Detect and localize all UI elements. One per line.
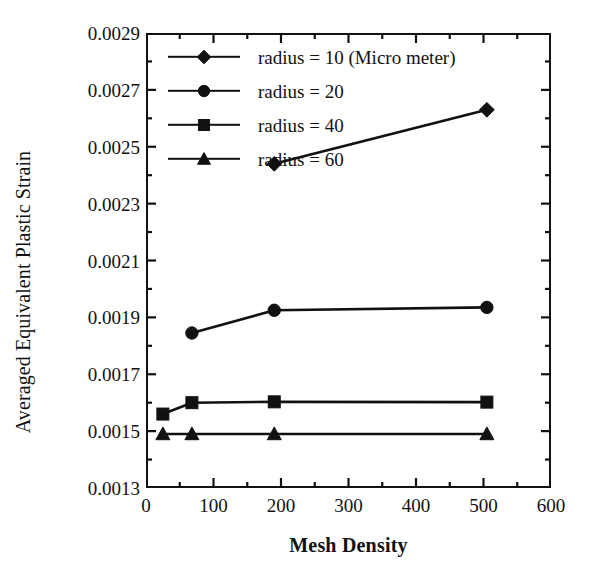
- data-point-marker: [481, 396, 493, 408]
- data-series: [156, 427, 494, 440]
- diamond-marker-icon: [194, 47, 214, 67]
- legend-key-circle-icon: [168, 81, 240, 101]
- y-axis-tick-label: 0.0013: [54, 479, 140, 498]
- data-point-marker: [481, 301, 493, 313]
- data-point-marker: [268, 396, 280, 408]
- x-axis-tick-label: 100: [179, 496, 249, 515]
- legend-item[interactable]: radius = 60: [168, 142, 456, 176]
- chart-legend: radius = 10 (Micro meter)radius = 20radi…: [168, 40, 456, 176]
- circle-marker-icon: [194, 81, 214, 101]
- x-axis-tick-label: 400: [381, 496, 451, 515]
- y-axis-tick-label: 0.0023: [54, 194, 140, 213]
- y-axis-tick-label: 0.0029: [54, 24, 140, 43]
- x-axis-tick-label: 200: [246, 496, 316, 515]
- y-axis-tick-label: 0.0017: [54, 365, 140, 384]
- data-point-marker: [186, 397, 198, 409]
- triangle-marker-icon: [194, 149, 214, 169]
- data-point-marker: [186, 327, 198, 339]
- plot-area: radius = 10 (Micro meter)radius = 20radi…: [146, 33, 551, 488]
- y-axis-tick-label: 0.0021: [54, 251, 140, 270]
- square-marker-icon: [194, 115, 214, 135]
- legend-item[interactable]: radius = 20: [168, 74, 456, 108]
- legend-key-square-icon: [168, 115, 240, 135]
- chart-figure: Averaged Equivalent Plastic Strain 0.001…: [0, 0, 598, 584]
- data-point-marker: [479, 102, 494, 117]
- y-axis-tick-label: 0.0027: [54, 80, 140, 99]
- data-series: [157, 396, 493, 420]
- data-point-marker: [157, 408, 169, 420]
- x-axis-tick-label: 0: [111, 496, 181, 515]
- x-axis-tick-label: 600: [516, 496, 586, 515]
- x-axis-tick-label: 300: [314, 496, 384, 515]
- legend-label: radius = 40: [240, 116, 344, 135]
- legend-key-diamond-icon: [168, 47, 240, 67]
- y-axis-tick-label: 0.0015: [54, 422, 140, 441]
- y-axis-tick-label: 0.0025: [54, 137, 140, 156]
- legend-item[interactable]: radius = 40: [168, 108, 456, 142]
- data-series: [186, 301, 493, 339]
- legend-label: radius = 10 (Micro meter): [240, 48, 456, 67]
- x-axis-title: Mesh Density: [146, 534, 551, 557]
- x-axis-tick-labels: 0100200300400500600: [0, 496, 598, 526]
- legend-label: radius = 60: [240, 150, 344, 169]
- legend-label: radius = 20: [240, 82, 344, 101]
- x-axis-tick-label: 500: [449, 496, 519, 515]
- legend-item[interactable]: radius = 10 (Micro meter): [168, 40, 456, 74]
- data-point-marker: [268, 304, 280, 316]
- legend-key-triangle-icon: [168, 149, 240, 169]
- y-axis-tick-label: 0.0019: [54, 308, 140, 327]
